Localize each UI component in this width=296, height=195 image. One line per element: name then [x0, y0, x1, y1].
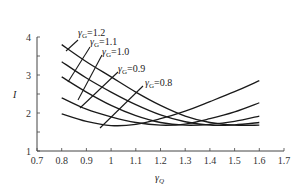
leader-line: [78, 55, 102, 100]
y-tick-label: 2: [26, 108, 31, 119]
x-tick-label: 1: [109, 155, 114, 166]
y-tick-label: 3: [26, 70, 31, 81]
x-tick-label: 1.3: [179, 155, 192, 166]
x-tick-label: 1.1: [130, 155, 143, 166]
leader-line: [100, 86, 143, 128]
y-tick-label: 1: [26, 146, 31, 157]
x-tick-label: 0.8: [55, 155, 68, 166]
chart: 0.70.80.911.11.21.31.41.51.61.71234 γG=1…: [0, 0, 296, 195]
leader-line: [68, 47, 90, 82]
curve-label: γG=1.0: [102, 46, 129, 59]
y-axis-label: I: [12, 89, 17, 100]
curve-label: γG=0.9: [118, 63, 145, 76]
x-tick-label: 0.9: [80, 155, 93, 166]
x-tick-label: 1.2: [154, 155, 167, 166]
x-axis-label: γQ: [155, 172, 164, 185]
x-tick-label: 1.7: [278, 155, 291, 166]
x-tick-label: 1.4: [204, 155, 217, 166]
y-tick-label: 4: [26, 32, 31, 43]
axes: [37, 37, 284, 151]
leader-line: [66, 40, 78, 51]
tick-labels: 0.70.80.911.11.21.31.41.51.61.71234: [26, 32, 290, 167]
x-tick-label: 0.7: [31, 155, 44, 166]
curve-label: γG=0.8: [145, 77, 172, 90]
curve-γG=0.9: [62, 98, 260, 125]
x-tick-label: 1.5: [228, 155, 241, 166]
x-tick-label: 1.6: [253, 155, 266, 166]
